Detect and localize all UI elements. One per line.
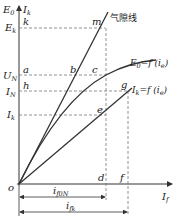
point-d-label: d [98, 172, 104, 183]
short-circuit-line [19, 88, 132, 184]
point-k-label: k [23, 16, 29, 27]
no-load-curve [19, 60, 156, 184]
point-e-label: e [97, 104, 103, 115]
y-axis-label-e0: E0 [2, 4, 14, 17]
un-tick-label: UN [3, 70, 17, 83]
air-gap-line-label: 气隙线 [110, 12, 137, 23]
origin-label: o [8, 182, 14, 193]
characteristic-diagram: E0 Ik If o Ek UN IN Ik k m a b c h g e d… [0, 0, 176, 221]
i-f0n-label: if0N [53, 185, 69, 198]
point-m-label: m [92, 16, 101, 27]
point-c-label: c [92, 64, 98, 75]
ek-tick-label: Ek [4, 22, 16, 35]
in-tick-label: IN [5, 86, 16, 99]
point-b-label: b [70, 64, 76, 75]
point-f-label: f [119, 172, 126, 183]
point-g-label: g [121, 79, 127, 90]
ik-tick-label: Ik [6, 109, 15, 122]
no-load-curve-label: E0=f (ie) [129, 58, 169, 70]
x-axis-label-if: If [161, 191, 170, 204]
point-h-label: h [23, 80, 29, 91]
point-a-label: a [23, 64, 29, 75]
short-circuit-line-label: Ik=f (ie) [131, 85, 168, 97]
i-fk-label: ifk [66, 200, 76, 213]
